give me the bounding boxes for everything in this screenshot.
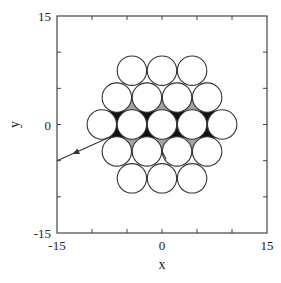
scatterer-circle (102, 137, 131, 166)
scatterer-circle (177, 110, 206, 139)
scatterer-circle (87, 110, 116, 139)
scatterer-circle (177, 56, 206, 85)
x-axis-label: x (159, 257, 166, 272)
scatterer-circle (147, 110, 176, 139)
scatterer-circle (117, 110, 146, 139)
scatterer-circles (87, 56, 237, 193)
y-tick-label-min: -15 (34, 226, 51, 241)
scatterer-circle (192, 83, 221, 112)
scatterer-circle (102, 83, 131, 112)
x-tick-label-max: 15 (261, 238, 274, 253)
y-axis-label: y (7, 121, 22, 128)
scatterer-circle (132, 137, 161, 166)
scatterer-circle (147, 164, 176, 193)
scatterer-circle (117, 56, 146, 85)
x-tick-label-zero: 0 (159, 238, 166, 253)
scattering-plot: -15 0 15 15 0 -15 x y (0, 0, 281, 283)
scatterer-circle (177, 164, 206, 193)
scatterer-circle (208, 110, 237, 139)
scatterer-circle (162, 137, 191, 166)
scatterer-circle (117, 164, 146, 193)
scatterer-circle (162, 83, 191, 112)
scatterer-circle (192, 137, 221, 166)
scatterer-circle (147, 56, 176, 85)
scatterer-circle (132, 83, 161, 112)
y-tick-label-max: 15 (38, 9, 51, 24)
y-tick-label-zero: 0 (45, 118, 52, 133)
